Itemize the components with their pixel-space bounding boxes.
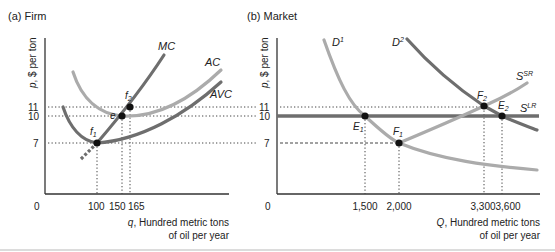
ac-label: AC xyxy=(204,56,220,68)
firm-y-tick-10: 10 xyxy=(28,111,40,122)
firm-y-tick-7: 7 xyxy=(33,138,39,149)
firm-x-axis-label-2: of oil per year xyxy=(168,230,229,241)
F1-label: F1 xyxy=(393,126,403,138)
ssr-label: SSR xyxy=(516,70,533,82)
market-x-axis-label-2: of oil per year xyxy=(479,230,540,241)
market-x-tick-3600: 3,600 xyxy=(495,201,520,212)
figure: (a) Firm p, $ per ton MC AC AVC f1 e f2 xyxy=(0,0,555,252)
point-F2 xyxy=(480,102,487,109)
point-e xyxy=(118,112,125,119)
firm-x-axis-label-1: q, Hundred metric tons xyxy=(128,217,229,228)
d2-label: D2 xyxy=(392,36,404,48)
d1-label: D1 xyxy=(332,36,344,48)
firm-x-tick-165: 165 xyxy=(128,201,145,212)
f2-label: f2 xyxy=(125,90,132,102)
ac-curve xyxy=(73,70,221,116)
E1-label: E1 xyxy=(353,121,364,133)
mc-curve-dashed xyxy=(81,144,96,159)
market-x-tick-1500: 1,500 xyxy=(352,201,377,212)
market-origin: 0 xyxy=(265,201,271,212)
market-x-axis-label-1: Q, Hundred metric tons xyxy=(437,217,540,228)
mc-label: MC xyxy=(158,40,175,52)
firm-panel: (a) Firm p, $ per ton MC AC AVC f1 e f2 xyxy=(8,10,256,241)
market-y-tick-7: 7 xyxy=(264,138,270,149)
market-title: (b) Market xyxy=(247,10,297,22)
point-E1 xyxy=(361,112,368,119)
firm-origin: 0 xyxy=(34,201,40,212)
market-panel: (b) Market p, $ per ton D1 D2 SSR SLR E1… xyxy=(247,10,541,241)
firm-x-tick-100: 100 xyxy=(88,201,105,212)
e-label: e xyxy=(110,110,116,121)
E2-label: E2 xyxy=(498,100,509,112)
F2-label: F2 xyxy=(477,90,487,102)
market-y-tick-10: 10 xyxy=(259,111,271,122)
avc-label: AVC xyxy=(209,88,232,100)
f1-label: f1 xyxy=(90,126,97,138)
firm-title: (a) Firm xyxy=(8,10,47,22)
point-F1 xyxy=(395,139,402,146)
point-f2 xyxy=(126,103,133,110)
firm-y-axis-label: p, $ per ton xyxy=(27,37,38,89)
firm-x-tick-150: 150 xyxy=(109,201,126,212)
market-x-tick-2000: 2,000 xyxy=(386,201,411,212)
slr-label: SLR xyxy=(520,102,536,114)
point-E2 xyxy=(498,112,505,119)
point-f1 xyxy=(93,139,100,146)
market-x-tick-3300: 3,300 xyxy=(470,201,495,212)
market-y-axis-label: p, $ per ton xyxy=(259,37,270,89)
